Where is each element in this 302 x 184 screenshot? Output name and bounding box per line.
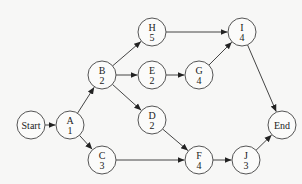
node-label: A <box>66 115 74 126</box>
node-i: I4 <box>228 18 256 46</box>
node-h: H5 <box>138 18 166 46</box>
node-label: E <box>149 65 155 76</box>
node-duration: 2 <box>150 75 155 86</box>
edge-i-end <box>248 45 277 112</box>
node-label: F <box>196 150 202 161</box>
edge-a-c <box>79 135 92 149</box>
node-duration: 2 <box>100 75 105 86</box>
node-start: Start <box>17 111 45 139</box>
edges <box>45 32 276 160</box>
node-label: J <box>244 150 248 161</box>
edge-b-h <box>113 41 141 65</box>
node-b: B2 <box>88 61 116 89</box>
node-duration: 4 <box>197 160 202 171</box>
node-duration: 4 <box>197 75 202 86</box>
node-duration: 5 <box>150 32 155 43</box>
edge-a-b <box>78 87 95 113</box>
node-label: H <box>148 22 155 33</box>
nodes: StartA1B2C3H5E2D2G4F4I4J3End <box>17 18 296 174</box>
node-label: I <box>240 22 243 33</box>
node-label: D <box>148 110 155 121</box>
node-end: End <box>268 111 296 139</box>
node-label: Start <box>22 120 41 131</box>
node-j: J3 <box>232 146 260 174</box>
node-label: C <box>99 150 106 161</box>
node-f: F4 <box>185 146 213 174</box>
node-duration: 1 <box>68 125 73 136</box>
edge-j-end <box>256 135 272 150</box>
network-diagram: StartA1B2C3H5E2D2G4F4I4J3End <box>0 0 302 184</box>
edge-b-d <box>112 84 141 110</box>
node-c: C3 <box>88 146 116 174</box>
node-duration: 4 <box>240 32 245 43</box>
node-duration: 2 <box>150 120 155 131</box>
node-d: D2 <box>138 106 166 134</box>
node-label: B <box>99 65 106 76</box>
node-e: E2 <box>138 61 166 89</box>
edge-g-i <box>209 42 232 65</box>
node-duration: 3 <box>244 160 249 171</box>
node-g: G4 <box>185 61 213 89</box>
node-label: End <box>274 120 290 131</box>
node-label: G <box>195 65 202 76</box>
node-a: A1 <box>56 111 84 139</box>
node-duration: 3 <box>100 160 105 171</box>
edge-d-f <box>163 129 188 151</box>
